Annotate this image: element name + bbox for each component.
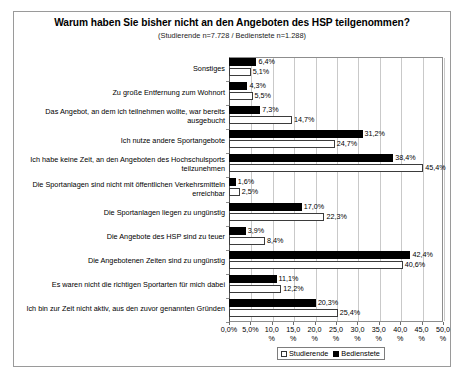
bar-value-label: 25,4% <box>340 309 360 317</box>
category-label: Die Sportanlagen sind nicht mit öffentli… <box>18 180 225 198</box>
category-label: Die Angebote des HSP sind zu teuer <box>18 232 225 241</box>
legend-label: Studierende <box>289 349 328 358</box>
category-label: Das Angebot, an dem ich teilnehmen wollt… <box>18 107 225 125</box>
bar-value-label: 24,7% <box>337 140 357 148</box>
bar-bedienstete <box>229 154 393 162</box>
legend-swatch-open <box>281 351 287 357</box>
value-axis: 0,0%5,0%10,0%15,0%20,0%25,0%30,0%35,0%40… <box>229 322 443 346</box>
bar-value-label: 5,1% <box>253 68 269 76</box>
bar-studierende <box>229 213 324 221</box>
chart-page: Warum haben Sie bisher nicht an den Ange… <box>0 0 466 378</box>
bar-value-label: 40,6% <box>405 261 425 269</box>
bar-studierende <box>229 140 335 148</box>
bar-bedienstete <box>229 299 316 307</box>
bar-value-label: 17,0% <box>304 203 324 211</box>
legend-label: Bedienstete <box>341 349 380 358</box>
category-label: Es waren nicht die richtigen Sportarten … <box>18 280 225 289</box>
bar-bedienstete <box>229 203 302 211</box>
bar-group: 17,0%22,3% <box>229 202 443 226</box>
category-label: Ich bin zur Zeit nicht aktiv, aus den zu… <box>18 304 225 313</box>
category-label: Zu große Entfernung zum Wohnort <box>18 88 225 97</box>
axis-tick-label: 50,0% <box>428 326 458 343</box>
bar-group: 31,2%24,7% <box>229 129 443 153</box>
gridline <box>444 58 445 321</box>
bar-studierende <box>229 92 253 100</box>
bar-bedienstete <box>229 227 246 235</box>
category-label: Ich habe keine Zeit, an den Angeboten de… <box>18 155 225 173</box>
bar-studierende <box>229 237 265 245</box>
legend-entry: Studierende <box>281 349 328 358</box>
category-label: Die Angebotenen Zeiten sind zu ungünstig <box>18 256 225 265</box>
bar-group: 4,3%5,5% <box>229 81 443 105</box>
bar-value-label: 42,4% <box>412 251 432 259</box>
bar-studierende <box>229 116 292 124</box>
bar-value-label: 2,5% <box>242 188 258 196</box>
bar-bedienstete <box>229 130 363 138</box>
bar-studierende <box>229 188 240 196</box>
bar-bedienstete <box>229 275 277 283</box>
category-axis-labels: SonstigesZu große Entfernung zum Wohnort… <box>18 57 225 322</box>
bar-bedienstete <box>229 106 260 114</box>
bar-studierende <box>229 164 423 172</box>
bar-group: 38,4%45,4% <box>229 153 443 177</box>
bar-group: 20,3%25,4% <box>229 298 443 322</box>
bar-value-label: 45,4% <box>425 164 445 172</box>
bar-value-label: 7,3% <box>262 106 278 114</box>
bar-value-label: 38,4% <box>395 154 415 162</box>
bar-value-label: 6,4% <box>258 58 274 66</box>
bar-studierende <box>229 285 281 293</box>
bar-group: 3,9%8,4% <box>229 226 443 250</box>
bar-bedienstete <box>229 82 247 90</box>
category-label: Ich nutze andere Sportangebote <box>18 136 225 145</box>
legend-entry: Bedienstete <box>333 349 380 358</box>
bar-value-label: 22,3% <box>326 213 346 221</box>
bar-group: 1,6%2,5% <box>229 177 443 201</box>
bar-value-label: 31,2% <box>365 130 385 138</box>
bar-value-label: 12,2% <box>283 285 303 293</box>
bar-bedienstete <box>229 251 410 259</box>
bar-group: 7,3%14,7% <box>229 105 443 129</box>
bar-value-label: 11,1% <box>279 275 299 283</box>
bar-bedienstete <box>229 178 236 186</box>
legend-swatch-filled <box>333 351 339 357</box>
bar-rows: 6,4%5,1%4,3%5,5%7,3%14,7%31,2%24,7%38,4%… <box>229 57 443 322</box>
chart-title: Warum haben Sie bisher nicht an den Ange… <box>14 17 450 28</box>
bar-group: 42,4%40,6% <box>229 250 443 274</box>
chart-legend: StudierendeBedienstete <box>277 347 385 360</box>
bar-studierende <box>229 309 338 317</box>
bar-value-label: 14,7% <box>294 116 314 124</box>
bar-value-label: 4,3% <box>249 82 265 90</box>
bar-bedienstete <box>229 58 256 66</box>
bar-group: 6,4%5,1% <box>229 57 443 81</box>
category-label: Sonstiges <box>18 64 225 73</box>
bar-value-label: 20,3% <box>318 299 338 307</box>
bar-value-label: 8,4% <box>267 237 283 245</box>
category-label: Die Sportanlagen liegen zu ungünstig <box>18 208 225 217</box>
bar-value-label: 1,6% <box>238 178 254 186</box>
bar-studierende <box>229 68 251 76</box>
bar-value-label: 5,5% <box>255 92 271 100</box>
chart-subtitle: (Studierende n=7.728 / Bedienstete n=1.2… <box>14 31 450 40</box>
bar-group: 11,1%12,2% <box>229 274 443 298</box>
bar-value-label: 3,9% <box>248 227 264 235</box>
bar-studierende <box>229 261 403 269</box>
